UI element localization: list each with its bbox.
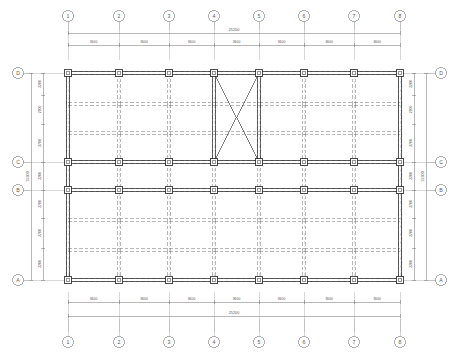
column-core [118,189,121,192]
column-core [399,189,402,192]
column-core [213,72,216,75]
dimension-segment-bottom: 3600 [325,297,333,301]
grid-bubble-top-8[interactable]: 8 [395,11,406,22]
grid-bubble-top-1[interactable]: 1 [63,11,74,22]
grid-bubble-left-C[interactable]: C [13,157,24,168]
column-core [67,189,70,192]
dimension-segment-right: 2200 [409,80,413,88]
grid-bubble-label: 3 [168,339,171,345]
column-core [168,161,171,164]
grid-bubble-label: C [16,159,20,165]
dimension-segment-left: 2200 [38,172,42,180]
dimension-segment-bottom: 3600 [90,297,98,301]
dimension-segment-top: 3600 [233,40,241,44]
grid-bubble-label: 1 [67,339,70,345]
grid-bubble-bottom-8[interactable]: 8 [395,337,406,348]
grid-bubble-top-3[interactable]: 3 [164,11,175,22]
grid-bubble-top-4[interactable]: 4 [209,11,220,22]
dimension-segment-left: 2200 [38,80,42,88]
column-core [213,279,216,282]
grid-bubble-right-A[interactable]: A [436,275,447,286]
dimension-segment-left: 2700 [38,200,42,208]
grid-bubble-left-D[interactable]: D [13,68,24,79]
dimension-segment-right: 2700 [409,139,413,147]
column-core [258,189,261,192]
column-core [168,72,171,75]
dimension-overall-bottom: 25200 [229,311,240,315]
column-core [168,189,171,192]
dimension-segment-top: 3600 [140,40,148,44]
column-core [353,72,356,75]
column-core [67,72,70,75]
dimension-segment-left: 2700 [38,229,42,237]
grid-bubble-bottom-1[interactable]: 1 [63,337,74,348]
dimension-segment-bottom: 3600 [233,297,241,301]
grid-bubble-label: 7 [353,13,356,19]
grid-bubble-label: 2 [118,339,121,345]
dimension-segment-right: 2200 [409,172,413,180]
grid-bubble-left-A[interactable]: A [13,275,24,286]
column-core [353,279,356,282]
grid-bubble-label: 5 [258,13,261,19]
column-core [303,189,306,192]
grid-bubble-label: D [439,70,443,76]
column-core [118,72,121,75]
dimension-segment-top: 3600 [373,40,381,44]
column-core [303,279,306,282]
column-core [213,189,216,192]
dimension-segment-right: 2700 [409,200,413,208]
dimension-segment-bottom: 3600 [278,297,286,301]
column-core [213,161,216,164]
column-core [353,189,356,192]
dimension-segment-top: 3600 [278,40,286,44]
dimension-segment-top: 3600 [90,40,98,44]
grid-bubble-label: 6 [303,339,306,345]
dimension-segment-top: 3600 [188,40,196,44]
dimension-segment-left: 2700 [38,139,42,147]
grid-bubble-label: 8 [399,339,402,345]
grid-bubble-label: A [439,277,443,283]
dimension-segment-bottom: 3600 [140,297,148,301]
column-core [258,161,261,164]
grid-bubble-top-6[interactable]: 6 [299,11,310,22]
column-core [118,161,121,164]
grid-bubble-label: D [16,70,20,76]
grid-bubble-right-B[interactable]: B [436,185,447,196]
column-core [67,279,70,282]
grid-bubble-label: 1 [67,13,70,19]
dimension-segment-right: 2200 [409,260,413,268]
dimension-overall-top: 25200 [229,28,240,32]
column-core [67,161,70,164]
grid-bubble-label: 7 [353,339,356,345]
column-core [399,72,402,75]
grid-bubble-bottom-6[interactable]: 6 [299,337,310,348]
grid-bubble-label: C [439,159,443,165]
column-core [303,161,306,164]
grid-bubble-bottom-2[interactable]: 2 [114,337,125,348]
grid-bubble-label: 4 [213,339,216,345]
grid-bubble-bottom-3[interactable]: 3 [164,337,175,348]
grid-bubble-label: 4 [213,13,216,19]
grid-bubble-bottom-5[interactable]: 5 [254,337,265,348]
grid-bubble-top-7[interactable]: 7 [349,11,360,22]
grid-bubble-top-2[interactable]: 2 [114,11,125,22]
column-core [118,279,121,282]
grid-bubble-label: 3 [168,13,171,19]
plan-canvas: 252003600360036003600360036003600 360036… [0,0,462,357]
grid-bubble-label: A [16,277,20,283]
dimension-segment-left: 2700 [38,106,42,114]
column-core [399,161,402,164]
column-core [258,72,261,75]
grid-bubble-bottom-4[interactable]: 4 [209,337,220,348]
grid-bubble-left-B[interactable]: B [13,185,24,196]
column-core [258,279,261,282]
column-core [303,72,306,75]
structural-framing-plan: 252003600360036003600360036003600 360036… [0,0,462,357]
dimension-overall-right: 15900 [421,171,425,182]
grid-bubble-right-D[interactable]: D [436,68,447,79]
grid-bubble-bottom-7[interactable]: 7 [349,337,360,348]
dimension-segment-top: 3600 [325,40,333,44]
column-core [399,279,402,282]
grid-bubble-right-C[interactable]: C [436,157,447,168]
grid-bubble-top-5[interactable]: 5 [254,11,265,22]
